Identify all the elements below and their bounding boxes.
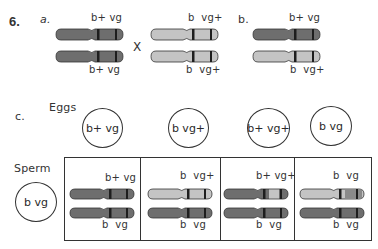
gene-label: b+ vg: [105, 172, 136, 183]
gene-label: b vg+: [180, 170, 215, 181]
chromosome-dark: [148, 207, 213, 219]
cross-symbol: X: [133, 40, 141, 54]
egg-genotype: b vg: [310, 106, 352, 146]
chromosome-dark: [56, 28, 124, 41]
gene-label: b+ vg: [289, 12, 320, 23]
chromosome-light: [151, 28, 219, 41]
egg-genotype-text: b+ vg: [86, 122, 119, 135]
gene-label: b vg: [333, 219, 359, 230]
chromosome-dark: [56, 50, 124, 63]
gene-label: b vg: [102, 219, 128, 230]
egg-genotype: b+ vg: [82, 108, 123, 148]
chromosome-light: [253, 50, 321, 63]
gene-label: b vg+: [290, 64, 325, 75]
part-a-label: a.: [40, 13, 51, 26]
egg-genotype: b vg+: [168, 108, 209, 148]
problem-number: 6.: [9, 14, 20, 29]
gene-label: b vg+: [186, 64, 221, 75]
egg-genotype-text: b vg+: [172, 122, 205, 135]
gene-label: b vg+: [188, 12, 223, 23]
sperm-label: Sperm: [14, 162, 51, 175]
egg-genotype: b+ vg+: [247, 108, 290, 148]
part-b-label: b.: [238, 13, 249, 26]
gene-label: b+ vg+: [256, 170, 296, 181]
chromosome-recombinant: [300, 188, 365, 200]
sperm-genotype: b vg: [15, 182, 57, 222]
eggs-label: Eggs: [49, 101, 76, 114]
cell-divider: [220, 158, 221, 240]
chromosome-dark: [70, 188, 135, 200]
chromosome-dark: [300, 207, 365, 219]
egg-genotype-text: b+ vg+: [247, 122, 289, 135]
part-c-label: c.: [15, 110, 25, 123]
chromosome-light: [148, 188, 213, 200]
gene-label: b vg: [180, 219, 206, 230]
sperm-genotype-text: b vg: [24, 196, 48, 209]
cell-divider: [140, 158, 141, 240]
chromosome-light: [151, 50, 219, 63]
egg-genotype-text: b vg: [319, 120, 343, 133]
chromosome-dark: [253, 28, 321, 41]
gene-label: b+ vg: [89, 64, 120, 75]
chromosome-dark: [224, 207, 289, 219]
chromosome-dark: [70, 207, 135, 219]
gene-label: b vg: [333, 170, 359, 181]
chromosome-recombinant: [224, 188, 289, 200]
gene-label: b+ vg: [91, 12, 122, 23]
gene-label: b vg: [256, 219, 282, 230]
